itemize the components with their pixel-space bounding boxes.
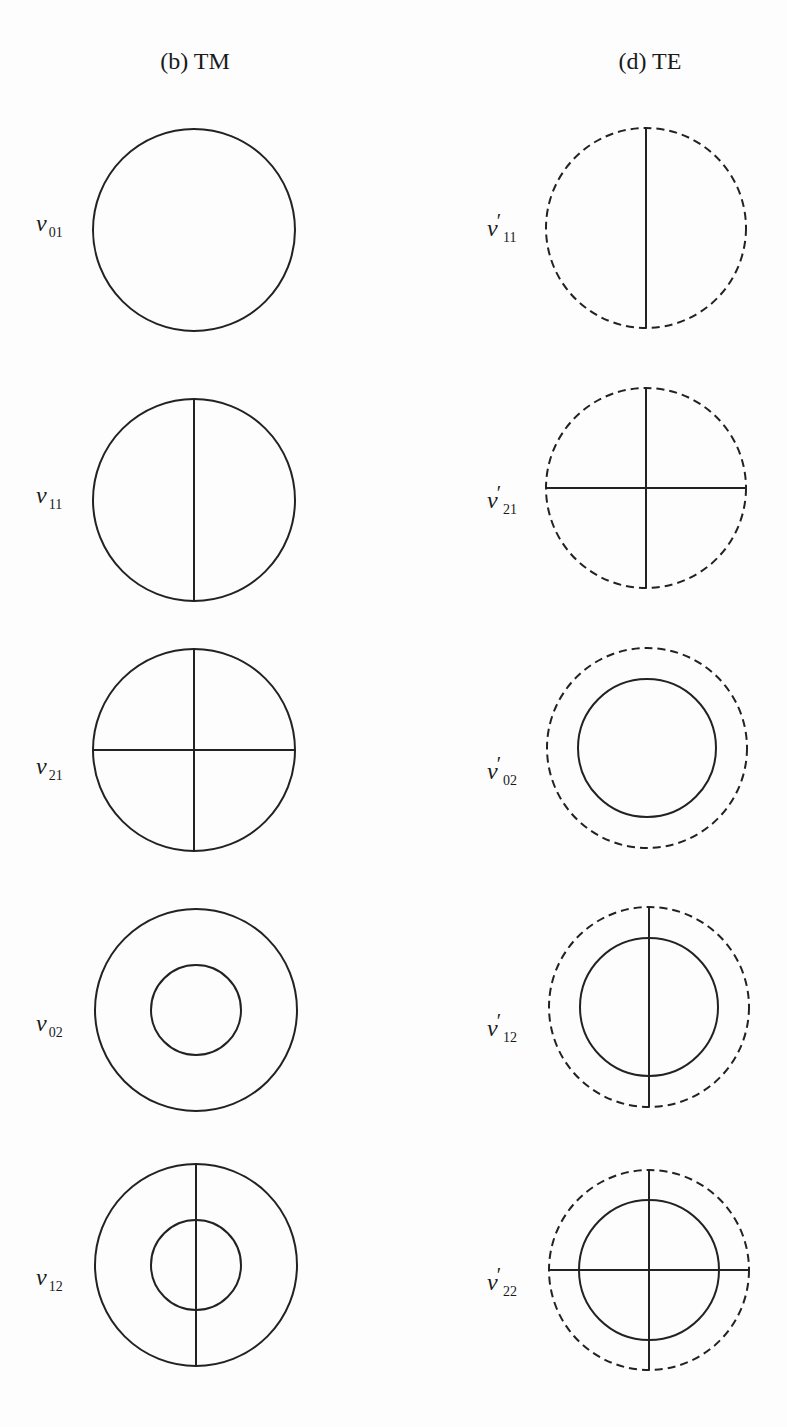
- te-21-diagram: [546, 388, 746, 588]
- te-02-diagram: [547, 648, 747, 848]
- tm-01-diagram: [93, 129, 295, 331]
- te-22-diagram: [549, 1170, 749, 1370]
- te-12-diagram: [549, 907, 749, 1107]
- tm-11-diagram: [93, 399, 295, 601]
- tm-12-diagram: [95, 1164, 297, 1366]
- tm-21-diagram: [93, 649, 295, 851]
- tm-02-diagram: [95, 909, 297, 1111]
- te-11-diagram: [546, 128, 746, 328]
- mode-diagrams: [0, 0, 787, 1427]
